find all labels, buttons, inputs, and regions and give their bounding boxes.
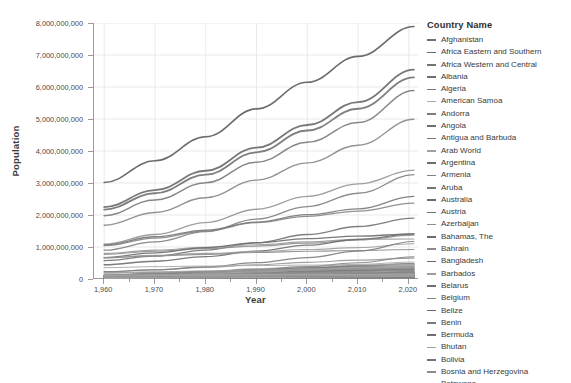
legend: Country Name AfghanistanAfrica Eastern a…	[427, 20, 571, 383]
legend-item[interactable]: Andorra	[427, 108, 571, 120]
series-line	[104, 27, 414, 183]
y-tick-label: 5,000,000,000	[1, 115, 83, 124]
legend-line-swatch-icon	[427, 248, 436, 250]
x-tick-label: 2,010	[348, 285, 367, 294]
legend-line-swatch-icon	[427, 347, 436, 349]
legend-item-label: Bosnia and Herzegovina	[441, 366, 528, 378]
legend-item[interactable]: Bosnia and Herzegovina	[427, 366, 571, 378]
legend-line-swatch-icon	[427, 101, 436, 103]
series-line	[104, 170, 414, 244]
x-minor-tick-mark	[230, 279, 231, 282]
legend-item[interactable]: Afghanistan	[427, 34, 571, 46]
legend-item-label: Barbados	[441, 268, 475, 280]
legend-item-label: Bolivia	[441, 354, 465, 366]
legend-item[interactable]: American Samoa	[427, 95, 571, 107]
legend-line-swatch-icon	[427, 334, 436, 336]
x-tick-label: 1,960	[94, 285, 113, 294]
legend-item[interactable]: Bhutan	[427, 341, 571, 353]
legend-item[interactable]: Barbados	[427, 268, 571, 280]
x-tick-mark	[408, 279, 409, 284]
legend-item-label: Benin	[441, 317, 461, 329]
x-minor-tick-mark	[129, 279, 130, 282]
legend-item-label: Africa Western and Central	[441, 59, 537, 71]
legend-line-swatch-icon	[427, 322, 436, 324]
legend-line-swatch-icon	[427, 89, 436, 91]
legend-item-label: Angola	[441, 120, 466, 132]
legend-item-label: Afghanistan	[441, 34, 483, 46]
legend-line-swatch-icon	[427, 125, 436, 127]
legend-item-label: Argentina	[441, 157, 475, 169]
legend-item[interactable]: Albania	[427, 71, 571, 83]
legend-item-label: Armenia	[441, 169, 471, 181]
legend-line-swatch-icon	[427, 138, 436, 140]
legend-item[interactable]: Armenia	[427, 169, 571, 181]
legend-line-swatch-icon	[427, 64, 436, 66]
line-chart-canvas	[94, 23, 419, 279]
x-tick-mark	[154, 279, 155, 284]
legend-line-swatch-icon	[427, 298, 436, 300]
x-minor-tick-mark	[332, 279, 333, 282]
legend-line-swatch-icon	[427, 150, 436, 152]
y-axis-ticks: 01,000,000,0002,000,000,0003,000,000,000…	[0, 0, 93, 302]
chart-screenshot: Population 01,000,000,0002,000,000,0003,…	[0, 0, 571, 383]
legend-item-label: Antigua and Barbuda	[441, 132, 516, 144]
legend-line-swatch-icon	[427, 212, 436, 214]
legend-item[interactable]: Bahrain	[427, 243, 571, 255]
x-tick-mark	[357, 279, 358, 284]
x-axis-title: Year	[93, 294, 418, 305]
legend-item[interactable]: Australia	[427, 194, 571, 206]
legend-line-swatch-icon	[427, 39, 436, 41]
legend-line-swatch-icon	[427, 113, 436, 115]
y-tick-label: 1,000,000,000	[1, 243, 83, 252]
legend-line-swatch-icon	[427, 175, 436, 177]
legend-item[interactable]: Bangladesh	[427, 255, 571, 267]
legend-item[interactable]: Benin	[427, 317, 571, 329]
legend-item-label: Belgium	[441, 292, 470, 304]
x-minor-tick-mark	[382, 279, 383, 282]
x-tick-mark	[256, 279, 257, 284]
legend-item-label: Botswana	[441, 378, 476, 383]
legend-item[interactable]: Botswana	[427, 378, 571, 383]
legend-line-swatch-icon	[427, 310, 436, 312]
legend-item-label: Algeria	[441, 83, 466, 95]
legend-item[interactable]: Angola	[427, 120, 571, 132]
y-tick-label: 6,000,000,000	[1, 83, 83, 92]
legend-line-swatch-icon	[427, 359, 436, 361]
legend-item[interactable]: Argentina	[427, 157, 571, 169]
legend-item[interactable]: Bermuda	[427, 329, 571, 341]
legend-line-swatch-icon	[427, 52, 436, 54]
legend-line-swatch-icon	[427, 371, 436, 373]
y-tick-label: 8,000,000,000	[1, 19, 83, 28]
x-tick-mark	[103, 279, 104, 284]
legend-line-swatch-icon	[427, 187, 436, 189]
legend-item[interactable]: Antigua and Barbuda	[427, 132, 571, 144]
legend-item[interactable]: Arab World	[427, 145, 571, 157]
x-tick-label: 1,970	[145, 285, 164, 294]
legend-item[interactable]: Africa Western and Central	[427, 59, 571, 71]
legend-item[interactable]: Bolivia	[427, 354, 571, 366]
legend-item-label: Africa Eastern and Southern	[441, 46, 542, 58]
series-line	[104, 196, 414, 244]
legend-line-swatch-icon	[427, 76, 436, 78]
legend-item-label: Bahrain	[441, 243, 469, 255]
legend-item[interactable]: Austria	[427, 206, 571, 218]
legend-item[interactable]: Azerbaijan	[427, 218, 571, 230]
legend-item-label: Albania	[441, 71, 468, 83]
y-tick-label: 3,000,000,000	[1, 179, 83, 188]
legend-item[interactable]: Bahamas, The	[427, 231, 571, 243]
legend-line-swatch-icon	[427, 224, 436, 226]
plot-area	[93, 23, 418, 279]
legend-title: Country Name	[427, 20, 571, 30]
legend-item[interactable]: Belarus	[427, 280, 571, 292]
legend-item[interactable]: Aruba	[427, 182, 571, 194]
legend-item[interactable]: Algeria	[427, 83, 571, 95]
legend-item[interactable]: Africa Eastern and Southern	[427, 46, 571, 58]
legend-item-label: Azerbaijan	[441, 218, 479, 230]
y-tick-label: 2,000,000,000	[1, 211, 83, 220]
legend-item[interactable]: Belgium	[427, 292, 571, 304]
legend-item-label: Bhutan	[441, 341, 466, 353]
legend-item[interactable]: Belize	[427, 305, 571, 317]
legend-item-label: Aruba	[441, 182, 462, 194]
legend-line-swatch-icon	[427, 199, 436, 201]
x-tick-label: 2,020	[399, 285, 418, 294]
